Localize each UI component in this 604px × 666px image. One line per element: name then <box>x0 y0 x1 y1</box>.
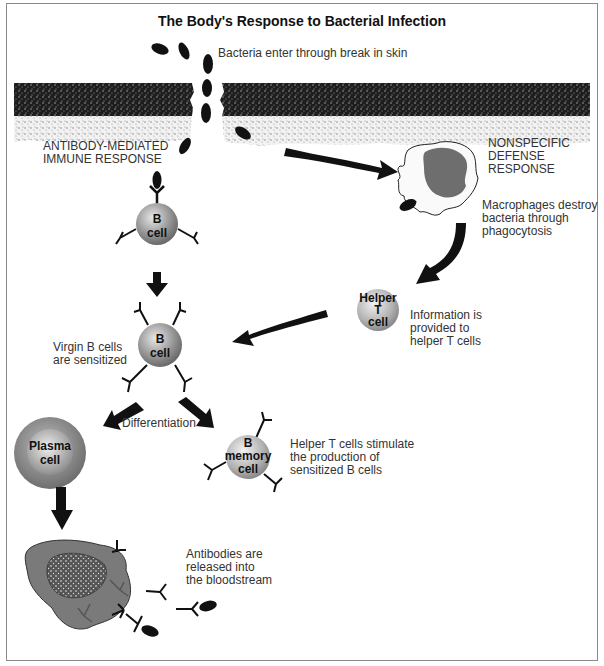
b-memory-label-3: cell <box>238 462 258 476</box>
label-bacteria-entry: Bacteria enter through break in skin <box>218 47 407 60</box>
arrow-to-helper-t <box>416 223 466 284</box>
b-cell-top-label-2: cell <box>147 226 167 240</box>
b-memory-label-2: memory <box>225 449 272 463</box>
label-info-3: helper T cells <box>410 335 481 348</box>
label-macrophage-3: phagocytosis <box>482 225 552 238</box>
b-cell-mid-label-2: cell <box>150 346 170 360</box>
plasma-cell: Plasma cell <box>14 417 86 489</box>
label-helper-stim-3: sensitized B cells <box>290 464 382 477</box>
b-cell-top: B cell <box>116 186 198 245</box>
arrow-down-2 <box>51 487 73 530</box>
label-antibodies-3: the bloodstream <box>186 574 272 587</box>
plasma-blob <box>25 540 130 629</box>
b-memory-cell: B memory cell <box>204 412 282 492</box>
arrow-to-b-cell <box>232 310 328 346</box>
arrow-to-macrophage <box>284 148 398 180</box>
b-cell-mid-label-1: B <box>156 332 165 346</box>
skin-layer-left <box>14 83 194 144</box>
b-memory-label-1: B <box>244 436 253 450</box>
helper-t-label-3: cell <box>368 315 388 329</box>
arrow-down-1 <box>146 272 168 297</box>
label-virgin-2: are sensitized <box>53 354 127 367</box>
plasma-label-1: Plasma <box>29 439 71 453</box>
helper-t-cell: Helper T cell <box>357 289 399 331</box>
diagram-artwork: B cell Helper T cell B cell Plasma <box>0 0 604 666</box>
bound-bacteria <box>140 599 218 639</box>
b-cell-top-label-1: B <box>153 212 162 226</box>
b-cell-middle: B cell <box>122 302 192 392</box>
label-differentiation: Differentiation <box>122 417 196 430</box>
label-antibody-response-2: IMMUNE RESPONSE <box>43 153 162 166</box>
plasma-label-2: cell <box>40 453 60 467</box>
macrophage <box>398 142 478 216</box>
label-nonspecific-3: RESPONSE <box>488 163 555 176</box>
